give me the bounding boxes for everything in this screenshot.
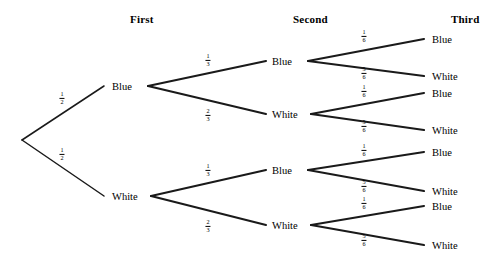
stage3-probability-5: 56: [361, 179, 366, 193]
stage3-branch-7: [311, 225, 424, 245]
stage3-probability-3-denominator: 6: [361, 127, 366, 134]
stage2-node-0-blue: Blue: [272, 56, 292, 67]
stage3-node-2-blue: Blue: [432, 88, 452, 99]
stage3-probability-5-denominator: 6: [361, 187, 366, 194]
stage1-node-0-blue: Blue: [112, 81, 132, 92]
stage1-node-1-white: White: [112, 191, 138, 202]
column-header-second: Second: [293, 13, 328, 25]
stage3-probability-1-denominator: 6: [361, 74, 366, 81]
stage3-node-4-blue: Blue: [432, 147, 452, 158]
stage2-probability-2: 13: [205, 163, 210, 177]
stage3-node-3-white: White: [432, 125, 458, 136]
stage2-probability-0: 13: [205, 53, 210, 67]
tree-branch-lines: [0, 0, 489, 266]
stage1-probability-1-denominator: 2: [59, 155, 64, 162]
stage3-probability-2: 16: [361, 84, 366, 98]
stage3-probability-7-denominator: 6: [361, 241, 366, 248]
stage3-node-5-white: White: [432, 186, 458, 197]
stage2-probability-1-denominator: 3: [205, 116, 210, 123]
stage2-probability-1: 23: [205, 108, 210, 122]
stage1-probability-0: 12: [59, 91, 64, 105]
stage3-branch-3: [311, 114, 424, 130]
stage1-probability-1: 12: [59, 147, 64, 161]
column-header-first: First: [130, 13, 154, 25]
stage2-probability-3: 23: [205, 219, 210, 233]
stage2-probability-0-denominator: 3: [205, 61, 210, 68]
stage3-node-1-white: White: [432, 71, 458, 82]
column-header-third: Third: [451, 13, 480, 25]
stage3-node-6-blue: Blue: [432, 201, 452, 212]
stage3-probability-6-denominator: 6: [361, 204, 366, 211]
probability-tree-diagram: FirstSecondThird BlueWhiteBlueWhiteBlueW…: [0, 0, 489, 266]
stage3-node-0-blue: Blue: [432, 34, 452, 45]
stage3-probability-7: 56: [361, 233, 366, 247]
stage3-probability-3: 56: [361, 119, 366, 133]
stage3-probability-4-denominator: 6: [361, 151, 366, 158]
stage3-probability-2-denominator: 6: [361, 92, 366, 99]
stage3-probability-6: 16: [361, 196, 366, 210]
stage2-probability-2-denominator: 3: [205, 171, 210, 178]
stage2-node-2-blue: Blue: [272, 165, 292, 176]
stage2-branch-group: [148, 61, 266, 225]
stage3-probability-1: 56: [361, 66, 366, 80]
stage3-branch-2: [311, 93, 424, 114]
stage2-node-1-white: White: [272, 109, 298, 120]
stage3-probability-0-denominator: 6: [361, 37, 366, 44]
stage2-node-3-white: White: [272, 220, 298, 231]
stage3-node-7-white: White: [432, 240, 458, 251]
stage3-probability-0: 16: [361, 29, 366, 43]
stage3-probability-4: 16: [361, 143, 366, 157]
stage3-branch-6: [311, 206, 424, 225]
stage2-probability-3-denominator: 3: [205, 227, 210, 234]
stage1-probability-0-denominator: 2: [59, 99, 64, 106]
